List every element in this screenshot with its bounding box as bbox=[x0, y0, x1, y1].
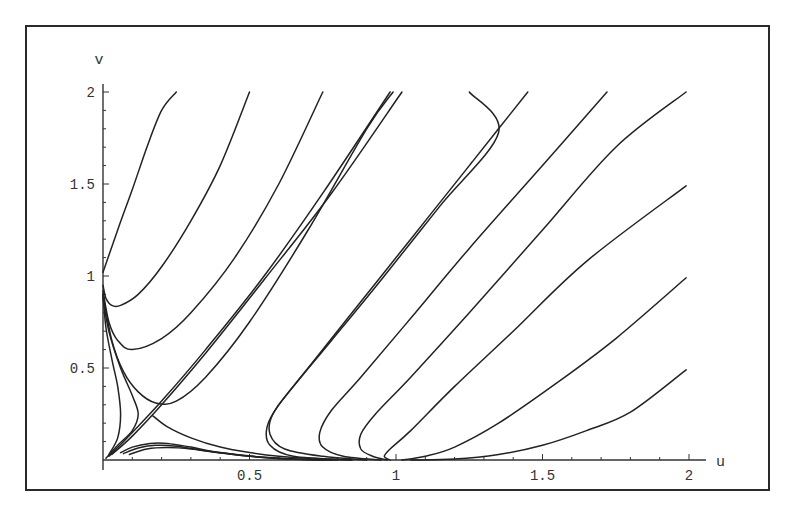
x-tick-label: 0.5 bbox=[237, 468, 262, 484]
trajectory-curve bbox=[266, 92, 528, 460]
x-tick-label: 2 bbox=[685, 468, 693, 484]
trajectory-curve bbox=[103, 92, 176, 272]
trajectory-curve bbox=[112, 92, 402, 455]
trajectory-curves bbox=[103, 92, 686, 460]
y-tick-label: 1.5 bbox=[70, 177, 95, 193]
trajectory-curve bbox=[411, 370, 686, 460]
x-axis-label: u bbox=[716, 454, 725, 471]
y-tick-label: 0.5 bbox=[70, 361, 95, 377]
x-tick-label: 1.5 bbox=[530, 468, 555, 484]
trajectory-curve bbox=[103, 92, 393, 404]
x-tick-label: 1 bbox=[392, 468, 400, 484]
trajectory-curve bbox=[103, 92, 323, 350]
y-axis-label: v bbox=[94, 52, 103, 69]
axes: 0.511.52 0.511.52 u v bbox=[70, 52, 725, 484]
trajectory-curve bbox=[384, 186, 686, 460]
trajectory-curve bbox=[103, 92, 250, 307]
y-tick-label: 1 bbox=[87, 269, 95, 285]
trajectory-curve bbox=[153, 416, 352, 460]
y-tick-label: 2 bbox=[87, 85, 95, 101]
phase-portrait-plot: 0.511.52 0.511.52 u v bbox=[0, 0, 795, 513]
trajectory-curve bbox=[402, 278, 686, 460]
trajectory-curve bbox=[359, 92, 686, 460]
trajectory-curve bbox=[319, 92, 607, 460]
